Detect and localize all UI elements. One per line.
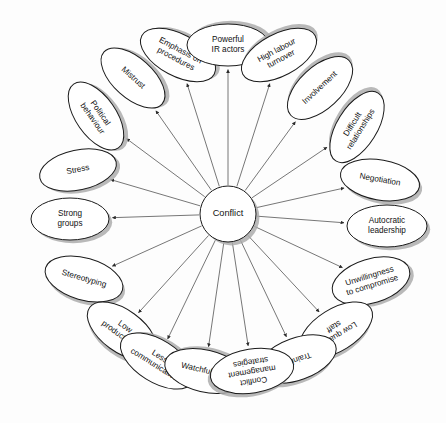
spoke-line-11 [257, 216, 344, 223]
center-node-group: Conflict [200, 186, 259, 245]
spoke-line-13 [254, 226, 342, 267]
conflict-mind-map: Emphasis onproceduresPowerfulIR actorsHi… [0, 0, 446, 423]
center-label: Conflict [213, 208, 244, 218]
node-negotiation[interactable]: Negotiation [337, 153, 425, 210]
node-label-line: leadership [368, 226, 406, 235]
spoke-line-5 [245, 122, 295, 191]
node-label-line: Powerful [212, 35, 244, 44]
spoke-line-15 [248, 235, 319, 312]
spoke-line-7 [252, 147, 327, 198]
spoke-line-14 [139, 235, 209, 312]
node-label: Autocraticleadership [368, 216, 406, 235]
spoke-line-10 [112, 215, 199, 218]
spoke-line-3 [237, 84, 270, 187]
node-stress[interactable]: Stress [36, 142, 124, 200]
spoke-line-17 [240, 240, 286, 337]
spoke-line-12 [112, 226, 201, 266]
node-label-line: Strong [58, 209, 83, 218]
spoke-line-9 [256, 188, 344, 208]
spoke-line-1 [187, 84, 219, 187]
node-strong-groups[interactable]: Stronggroups [31, 198, 112, 243]
spoke-line-4 [156, 111, 212, 190]
spoke-line-16 [168, 240, 216, 339]
center-node-conflict[interactable]: Conflict [200, 186, 259, 245]
node-label: Stronggroups [57, 209, 82, 228]
diagram-canvas: Emphasis onproceduresPowerfulIR actorsHi… [0, 0, 446, 423]
spoke-line-19 [232, 243, 248, 346]
spoke-line-18 [209, 243, 224, 347]
node-label-line: Autocratic [369, 216, 405, 225]
node-label-line: groups [57, 219, 82, 228]
node-label: PowerfulIR actors [212, 35, 245, 54]
node-label-line: IR actors [212, 45, 245, 54]
node-autocratic-leadership[interactable]: Autocraticleadership [347, 205, 430, 250]
